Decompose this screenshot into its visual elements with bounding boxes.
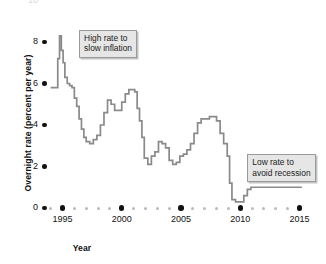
low-rate-callout: Low rate to avoid recession [247, 154, 315, 182]
high-rate-callout: High rate to slow inflation [79, 30, 137, 58]
plot-area [0, 0, 326, 264]
chart-container: Overnight rate (percent per year) Year 0… [0, 0, 326, 264]
